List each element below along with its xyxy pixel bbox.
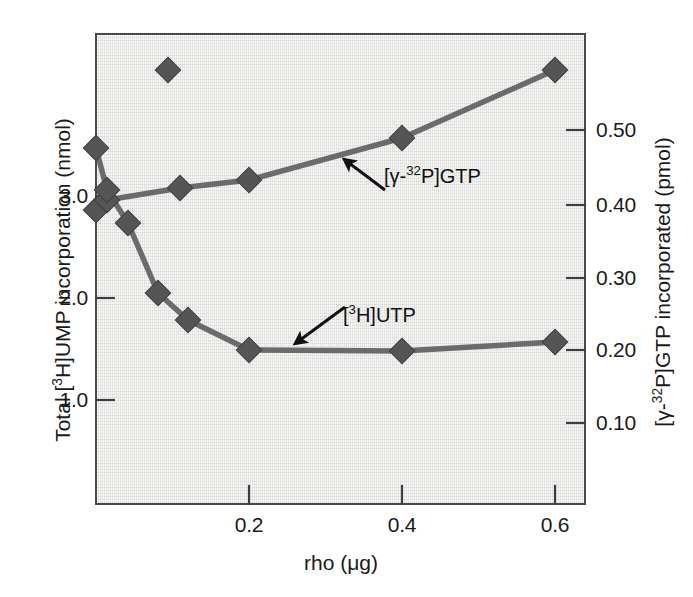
y-left-label-superscript: 3 <box>49 378 65 386</box>
series-markers-gtp <box>83 57 567 222</box>
y-right-tick-050: 0.50 <box>596 119 636 140</box>
gtp-label-superscript: 32 <box>406 163 421 178</box>
x-tick-02: 0.2 <box>235 514 264 535</box>
chart-figure: 3.0 2.0 1.0 0.50 0.40 0.30 0.20 0.10 0.2… <box>0 0 693 597</box>
series-line-gtp <box>96 70 555 210</box>
y-left-label-rest: H]UMP incorporation (nmol) <box>51 118 74 378</box>
y-right-tick-030: 0.30 <box>596 267 636 288</box>
y-axis-right-label: [γ-32P]GTP incorporated (pmol) <box>651 82 675 482</box>
y-left-tickmarks <box>95 196 115 400</box>
gtp-annotation-arrow <box>345 160 385 190</box>
series-label-utp: [3H]UTP <box>343 304 416 327</box>
y-right-label-rest: P]GTP incorporated (pmol) <box>651 137 674 388</box>
utp-label-suffix: H]UTP <box>356 304 416 326</box>
y-left-label-prefix: Total [ <box>51 386 74 442</box>
y-right-tick-040: 0.40 <box>596 194 636 215</box>
series-label-gtp: [γ-32P]GTP <box>384 165 481 188</box>
utp-label-superscript: 3 <box>349 302 356 317</box>
utp-annotation-arrow <box>296 307 345 343</box>
y-right-tick-020: 0.20 <box>596 339 636 360</box>
y-right-tickmarks <box>566 130 586 423</box>
gtp-label-prefix: [γ- <box>384 165 406 187</box>
x-tick-06: 0.6 <box>541 514 570 535</box>
plot-overlay <box>0 0 693 597</box>
gtp-label-suffix: P]GTP <box>421 165 481 187</box>
series-marker-outlier <box>155 57 180 82</box>
x-axis-label: rho (μg) <box>241 551 441 575</box>
y-right-tick-010: 0.10 <box>596 412 636 433</box>
x-tick-04: 0.4 <box>388 514 417 535</box>
y-right-label-prefix: [γ- <box>651 403 674 426</box>
series-markers-utp <box>83 135 567 363</box>
y-axis-left-label: Total [3H]UMP incorporation (nmol) <box>51 80 75 480</box>
y-right-label-superscript: 32 <box>649 388 665 403</box>
x-tickmarks <box>249 485 555 505</box>
